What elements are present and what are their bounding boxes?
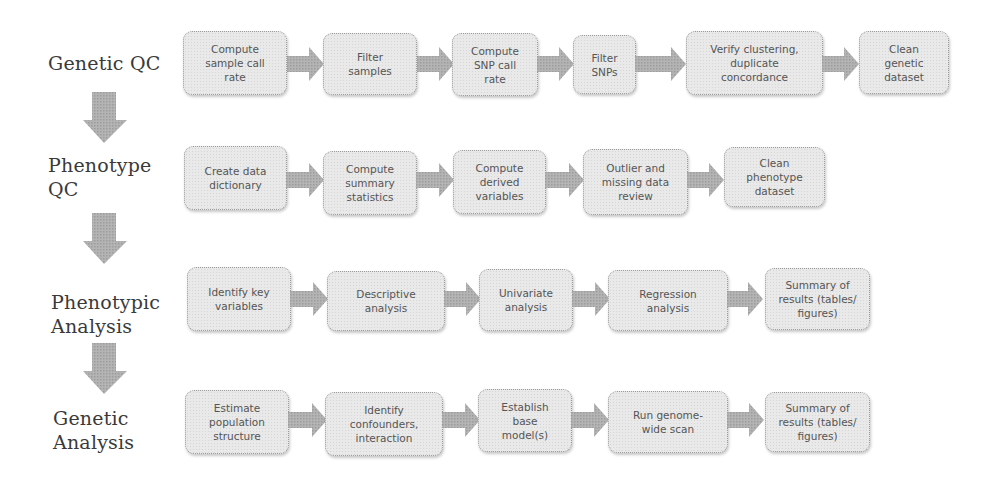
step-text: Filter SNPs — [591, 51, 617, 79]
stage-label-genetic-qc: Genetic QC — [48, 51, 160, 75]
step-create-data-dictionary: Create data dictionary — [184, 146, 287, 210]
step-text: Descriptive analysis — [356, 287, 415, 315]
step-text: Filter samples — [348, 50, 392, 78]
step-filter-snps: Filter SNPs — [573, 35, 636, 94]
stage-label-phenotype-qc: Phenotype QC — [48, 153, 152, 201]
step-text: Compute derived variables — [476, 161, 524, 203]
step-identify-key-variables: Identify key variables — [187, 267, 291, 331]
step-compute-sample-call-rate: Compute sample call rate — [183, 31, 287, 95]
step-text: Compute SNP call rate — [471, 44, 519, 86]
right-arrow-icon — [545, 163, 585, 197]
step-run-genome-wide-scan: Run genome- wide scan — [608, 391, 728, 453]
step-compute-derived-variables: Compute derived variables — [453, 150, 546, 214]
step-text: Clean phenotype dataset — [746, 156, 802, 198]
step-text: Regression analysis — [639, 287, 696, 315]
step-compute-summary-statistics: Compute summary statistics — [323, 151, 417, 215]
right-arrow-icon — [727, 403, 765, 437]
step-text: Run genome- wide scan — [633, 408, 703, 436]
right-arrow-icon — [286, 163, 325, 197]
step-clean-phenotype-dataset: Clean phenotype dataset — [724, 147, 825, 207]
step-summary-results-genetic: Summary of results (tables/ figures) — [765, 392, 870, 452]
stage-label-phenotypic-analysis: Phenotypic Analysis — [51, 290, 160, 338]
right-arrow-icon — [288, 403, 328, 437]
step-identify-confounders: Identify confounders, interaction — [325, 392, 443, 456]
right-arrow-icon — [416, 163, 455, 197]
step-text: Identify confounders, interaction — [350, 403, 419, 445]
stage-label-genetic-analysis: Genetic Analysis — [53, 406, 134, 454]
step-text: Clean genetic dataset — [884, 42, 924, 84]
down-arrow-icon — [82, 92, 128, 144]
right-arrow-icon — [571, 403, 610, 437]
right-arrow-icon — [572, 282, 611, 316]
step-text: Outlier and missing data review — [602, 161, 669, 203]
step-univariate-analysis: Univariate analysis — [479, 269, 573, 331]
right-arrow-icon — [635, 47, 687, 81]
step-text: Estimate population structure — [209, 401, 265, 443]
step-text: Compute sample call rate — [205, 42, 265, 84]
right-arrow-icon — [287, 47, 325, 81]
step-text: Compute summary statistics — [345, 162, 395, 204]
step-text: Create data dictionary — [205, 164, 267, 192]
step-text: Establish base model(s) — [501, 400, 548, 442]
step-estimate-population-structure: Estimate population structure — [185, 390, 289, 454]
step-text: Verify clustering, duplicate concordance — [710, 42, 798, 84]
step-regression-analysis: Regression analysis — [608, 270, 728, 331]
step-descriptive-analysis: Descriptive analysis — [327, 271, 445, 331]
down-arrow-icon — [82, 343, 128, 395]
step-text: Univariate analysis — [499, 286, 553, 314]
step-clean-genetic-dataset: Clean genetic dataset — [859, 31, 949, 94]
step-compute-snp-call-rate: Compute SNP call rate — [452, 33, 538, 96]
step-text: Summary of results (tables/ figures) — [778, 401, 856, 443]
down-arrow-icon — [82, 213, 128, 265]
right-arrow-icon — [417, 47, 455, 81]
step-outlier-missing-review: Outlier and missing data review — [583, 149, 688, 215]
right-arrow-icon — [290, 282, 329, 316]
right-arrow-icon — [822, 47, 860, 81]
right-arrow-icon — [537, 47, 575, 81]
step-text: Summary of results (tables/ figures) — [778, 278, 856, 320]
right-arrow-icon — [687, 163, 725, 197]
step-text: Identify key variables — [208, 285, 269, 313]
step-summary-results-phenotypic: Summary of results (tables/ figures) — [765, 268, 870, 330]
step-filter-samples: Filter samples — [323, 33, 417, 95]
right-arrow-icon — [727, 282, 764, 316]
step-verify-clustering: Verify clustering, duplicate concordance — [686, 31, 823, 95]
step-establish-base-models: Establish base model(s) — [478, 389, 572, 452]
right-arrow-icon — [444, 282, 482, 316]
right-arrow-icon — [442, 403, 481, 437]
